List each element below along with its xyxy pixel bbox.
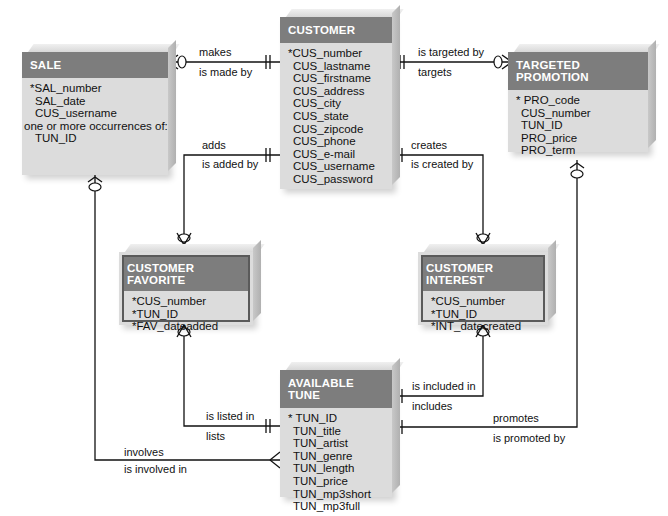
rel-label-is-created-by: is created by xyxy=(411,158,473,170)
attribute: TUN_artist xyxy=(288,437,384,450)
attribute: * PRO_code xyxy=(516,94,640,107)
entity-customer-interest: CUSTOMER INTEREST *CUS_number *TUN_ID *I… xyxy=(418,252,548,325)
attribute: TUN_price xyxy=(288,475,384,488)
entity-title: AVAILABLE TUNE xyxy=(280,370,392,408)
entity-title: CUSTOMER FAVORITE xyxy=(124,257,248,291)
attribute: SAL_date xyxy=(30,95,160,108)
attribute: *TUN_ID xyxy=(431,308,535,321)
rel-label-is-listed-in: is listed in xyxy=(206,410,254,422)
entity-available-tune: AVAILABLE TUNE * TUN_ID TUN_title TUN_ar… xyxy=(280,370,392,497)
rel-label-lists: lists xyxy=(206,430,225,442)
attribute: CUS_state xyxy=(288,110,384,123)
rel-label-is-promoted-by: is promoted by xyxy=(493,432,565,444)
rel-label-is-made-by: is made by xyxy=(199,66,252,78)
attribute: *TUN_ID xyxy=(132,308,240,321)
attribute: PRO_term xyxy=(516,144,640,157)
attribute: TUN_mp3full xyxy=(288,500,384,513)
attribute: TUN_mp3short xyxy=(288,488,384,501)
entity-title: CUSTOMER INTEREST xyxy=(423,257,543,291)
rel-label-includes: includes xyxy=(412,400,452,412)
rel-label-creates: creates xyxy=(411,139,447,151)
attribute: PRO_price xyxy=(516,132,640,145)
rel-label-promotes: promotes xyxy=(493,412,539,424)
attribute: TUN_length xyxy=(288,462,384,475)
entity-title: TARGETED PROMOTION xyxy=(508,52,648,90)
attribute: CUS_address xyxy=(288,85,384,98)
attribute: CUS_e-mail xyxy=(288,148,384,161)
entity-customer-favorite: CUSTOMER FAVORITE *CUS_number *TUN_ID *F… xyxy=(119,252,253,325)
attribute: CUS_password xyxy=(288,173,384,186)
rel-label-adds: adds xyxy=(202,139,226,151)
attribute: *SAL_number xyxy=(30,82,160,95)
entity-sale: SALE *SAL_number SAL_date CUS_username o… xyxy=(22,52,168,175)
attribute: CUS_zipcode xyxy=(288,123,384,136)
attribute: *CUS_number xyxy=(431,295,535,308)
rel-label-involves: involves xyxy=(124,446,164,458)
entity-title: CUSTOMER xyxy=(280,17,392,43)
attribute: *CUS_number xyxy=(288,47,384,60)
entity-targeted-promotion: TARGETED PROMOTION * PRO_code CUS_number… xyxy=(508,52,648,152)
entity-title: SALE xyxy=(22,52,168,78)
entity-customer: CUSTOMER *CUS_number CUS_lastname CUS_fi… xyxy=(280,17,392,189)
attribute: TUN_title xyxy=(288,425,384,438)
rel-label-is-added-by: is added by xyxy=(202,158,258,170)
rel-label-is-included-in: is included in xyxy=(412,380,476,392)
attribute: *FAV_dateadded xyxy=(132,320,240,333)
attribute-note: one or more occurrences of: xyxy=(24,120,160,133)
attribute: CUS_username xyxy=(288,160,384,173)
attribute: CUS_phone xyxy=(288,135,384,148)
attribute: * TUN_ID xyxy=(288,412,384,425)
attribute: CUS_city xyxy=(288,97,384,110)
attribute: TUN_genre xyxy=(288,450,384,463)
attribute: CUS_firstname xyxy=(288,72,384,85)
attribute: *INT_datecreated xyxy=(431,320,535,333)
rel-label-is-targeted-by: is targeted by xyxy=(418,46,484,58)
attribute: CUS_username xyxy=(30,107,160,120)
attribute: CUS_lastname xyxy=(288,60,384,73)
attribute: CUS_number xyxy=(516,107,640,120)
rel-label-makes: makes xyxy=(199,46,231,58)
attribute: *CUS_number xyxy=(132,295,240,308)
attribute: TUN_ID xyxy=(516,119,640,132)
rel-label-is-involved-in: is involved in xyxy=(124,463,187,475)
attribute: TUN_ID xyxy=(30,132,160,145)
rel-label-targets: targets xyxy=(418,66,452,78)
